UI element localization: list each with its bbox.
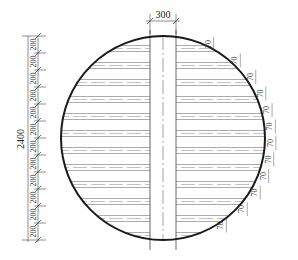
arc-dimension-label: 70 — [265, 120, 275, 134]
arc-dimension-label: 70 — [230, 54, 240, 68]
segment-dimension-label: 200 — [29, 107, 38, 119]
svg-text:70: 70 — [230, 57, 239, 65]
arc-dimension-label: 70 — [204, 37, 214, 51]
segment-dimension-label: 200 — [29, 226, 38, 238]
segment-dimension-label: 200 — [29, 192, 38, 204]
segment-dimension-label: 200 — [29, 39, 38, 51]
svg-text:70: 70 — [264, 156, 273, 164]
central-vertical-band — [150, 30, 176, 250]
svg-text:70: 70 — [259, 172, 268, 180]
svg-text:70: 70 — [216, 222, 225, 230]
arc-dimension-label: 70 — [266, 136, 276, 150]
svg-text:70: 70 — [237, 205, 246, 213]
overall-height-label: 2400 — [15, 129, 26, 149]
arc-dimension-label: 70 — [237, 202, 247, 216]
segment-dimension-label: 200 — [29, 73, 38, 85]
arc-dimension-label: 70 — [256, 87, 266, 101]
segment-dimension-label: 200 — [29, 209, 38, 221]
segment-dimension-label: 200 — [29, 124, 38, 136]
svg-text:70: 70 — [262, 106, 271, 114]
svg-text:70: 70 — [204, 40, 213, 48]
svg-text:70: 70 — [246, 73, 255, 81]
svg-text:70: 70 — [250, 189, 259, 197]
segment-dimension-label: 200 — [29, 158, 38, 170]
arc-dimension-label: 70 — [264, 153, 274, 167]
svg-text:70: 70 — [256, 90, 265, 98]
segment-dimension-label: 200 — [29, 141, 38, 153]
arc-dimension-label: 70 — [262, 103, 272, 117]
left-dimension-chain: 2400 20020020020020020020020020020020020… — [15, 33, 46, 243]
segment-dimension-label: 200 — [29, 56, 38, 68]
svg-text:70: 70 — [266, 139, 275, 147]
arc-dimension-label: 70 — [246, 70, 256, 84]
cross-section-drawing: 300 2400 2002002002002002002002002002002… — [0, 0, 298, 260]
segment-dimension-label: 200 — [29, 175, 38, 187]
band-width-label: 300 — [156, 9, 171, 20]
segment-dimension-label: 200 — [29, 90, 38, 102]
svg-text:70: 70 — [265, 123, 274, 131]
